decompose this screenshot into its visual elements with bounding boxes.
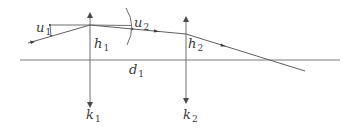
diagram-lines xyxy=(0,0,354,131)
ray-segment-3 xyxy=(186,34,305,71)
label-k2: k2 xyxy=(183,108,198,124)
label-d1: d1 xyxy=(129,63,144,79)
label-u1: u1 xyxy=(36,21,51,37)
label-u2: u2 xyxy=(134,16,149,32)
optics-diagram: u1 h1 u2 h2 d1 k1 k2 xyxy=(0,0,354,131)
ray-direction-arrow-icon xyxy=(154,29,159,32)
label-h2: h2 xyxy=(188,37,203,53)
arrow-up-icon xyxy=(183,16,189,22)
label-h1: h1 xyxy=(94,37,109,53)
ray-direction-arrow-icon xyxy=(221,44,227,47)
label-k1: k1 xyxy=(86,108,101,124)
arrow-up-icon xyxy=(87,12,93,18)
arrow-down-icon xyxy=(183,98,189,104)
reference-arc xyxy=(126,8,132,45)
